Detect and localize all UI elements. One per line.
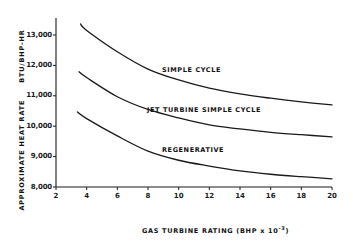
x-axis-label-close: ) <box>285 227 289 235</box>
x-tick-label: 18 <box>291 192 311 200</box>
y-axis-label-main: APPROXIMATE HEAT RATE <box>18 100 26 211</box>
y-axis-label-unit: BTU/BHP-HR <box>18 29 26 82</box>
x-tick-label: 12 <box>199 192 219 200</box>
series-label-jet-turbine: JET TURBINE SIMPLE CYCLE <box>147 106 261 114</box>
y-axis-label: APPROXIMATE HEAT RATE BTU/BHP-HR <box>18 29 26 210</box>
x-tick-label: 16 <box>261 192 281 200</box>
simple-cycle-curve <box>81 24 332 105</box>
x-axis-label: GAS TURBINE RATING (BHP x 10-3) <box>142 225 289 235</box>
x-tick-label: 2 <box>46 192 66 200</box>
x-tick-label: 20 <box>322 192 342 200</box>
series-label-simple-cycle: SIMPLE CYCLE <box>162 66 221 74</box>
axes <box>53 18 332 190</box>
x-tick-label: 14 <box>230 192 250 200</box>
series-label-regenerative: REGENERATIVE <box>162 146 224 154</box>
x-axis-label-unit: (BHP x 10 <box>236 227 278 235</box>
x-tick-label: 4 <box>77 192 97 200</box>
x-axis-label-main: GAS TURBINE RATING <box>142 227 233 235</box>
curves <box>77 24 332 179</box>
jet-turbine-simple-cycle-curve <box>79 72 332 137</box>
heat-rate-chart <box>0 0 353 246</box>
x-tick-label: 6 <box>107 192 127 200</box>
x-tick-label: 8 <box>138 192 158 200</box>
x-tick-label: 10 <box>169 192 189 200</box>
